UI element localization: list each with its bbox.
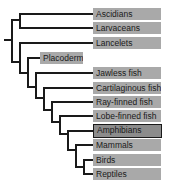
taxon-label-ascidians: Ascidians bbox=[93, 8, 161, 21]
taxon-label-placoderms: Placoderms bbox=[40, 52, 83, 65]
taxon-label-cartilaginous-fish: Cartilaginous fish bbox=[93, 82, 161, 95]
taxon-label-lobe-finned-fish: Lobe-finned fish bbox=[93, 110, 161, 123]
taxon-label-larvaceans: Larvaceans bbox=[93, 22, 161, 35]
taxon-label-amphibians: Amphibians bbox=[93, 124, 162, 138]
taxon-label-jawless-fish: Jawless fish bbox=[93, 67, 161, 80]
taxon-label-ray-finned-fish: Ray-finned fish bbox=[93, 96, 161, 109]
taxon-label-mammals: Mammals bbox=[93, 139, 161, 152]
taxon-label-reptiles: Reptiles bbox=[93, 168, 161, 181]
taxon-label-birds: Birds bbox=[93, 154, 161, 167]
taxon-label-lancelets: Lancelets bbox=[93, 37, 161, 50]
